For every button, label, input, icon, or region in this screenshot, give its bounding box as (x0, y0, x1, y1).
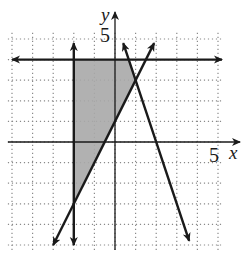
x-tick-label-5: 5 (209, 144, 219, 167)
graph-canvas (0, 0, 244, 254)
y-tick-label-5: 5 (100, 24, 110, 47)
y-axis-label: y (101, 4, 109, 26)
x-axis-label: x (229, 142, 237, 164)
shaded-feasible-region (74, 60, 136, 204)
